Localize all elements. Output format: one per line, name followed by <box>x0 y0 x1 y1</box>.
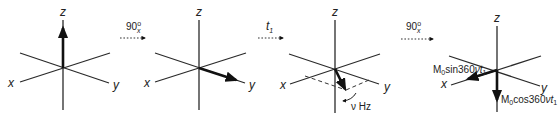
panel-3: z x y ν Hz <box>279 5 391 113</box>
panel-4: z x y M0sin360νt1 M0cos360νt1 <box>433 11 557 112</box>
z-label: z <box>195 5 202 19</box>
sin-component-label: M0sin360νt1 <box>433 64 487 76</box>
x-label: x <box>7 76 15 90</box>
panel-2: z x y <box>143 5 256 110</box>
z-label: z <box>59 5 66 19</box>
pulse-label-1: 90ox <box>126 20 141 34</box>
cos-component-label: M0cos360νt1 <box>501 94 557 106</box>
y-label: y <box>248 78 256 92</box>
y-label: y <box>540 81 548 95</box>
panel-1: z x y <box>7 5 120 110</box>
y-label: y <box>383 80 391 94</box>
x-label: x <box>440 77 448 91</box>
frequency-label: ν Hz <box>351 101 371 112</box>
z-label: z <box>331 5 338 19</box>
x-label: x <box>279 78 287 92</box>
rotation-diagram: z x y 90ox z x y t1 z x y ν Hz 90ox <box>0 0 559 119</box>
transition-pulse-2: 90ox <box>401 20 433 39</box>
precession-arrow-icon <box>343 93 356 101</box>
z-label: z <box>493 11 500 25</box>
y-label: y <box>112 78 120 92</box>
magnetization-vector-y <box>199 68 236 80</box>
pulse-label-2: 90ox <box>406 20 421 34</box>
delay-label: t1 <box>266 19 273 34</box>
x-label: x <box>143 76 151 90</box>
projection-dash-y <box>346 80 369 90</box>
transition-delay: t1 <box>258 19 283 38</box>
transition-pulse-1: 90ox <box>120 20 145 38</box>
